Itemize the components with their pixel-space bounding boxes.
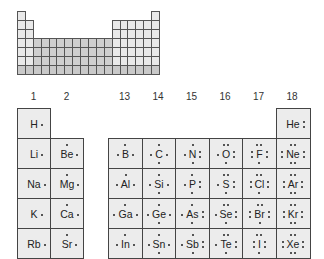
group-header-13: 13	[108, 91, 141, 102]
valence-electron-dot	[233, 156, 235, 158]
valence-electron-dot	[225, 162, 227, 164]
valence-electron-dot	[256, 144, 258, 146]
valence-electron-dot	[251, 151, 253, 153]
valence-electron-dot	[202, 241, 204, 243]
group-header-1: 1	[17, 91, 50, 102]
valence-electron-dot	[76, 154, 78, 156]
valence-electron-dot	[158, 204, 160, 206]
valence-electron-dot	[215, 214, 217, 216]
valence-electron-dot	[233, 151, 235, 153]
element-cell-k: K	[17, 198, 51, 229]
lewis-symbol: Al	[115, 178, 136, 190]
valence-electron-dot	[158, 192, 160, 194]
valence-electron-dot	[290, 204, 292, 206]
lewis-symbol: Be	[55, 148, 80, 160]
valence-electron-dot	[235, 216, 237, 218]
element-cell-cl: Cl	[242, 168, 277, 199]
valence-electron-dot	[257, 204, 259, 206]
element-symbol: Cl	[255, 178, 265, 190]
lewis-symbol: Se	[214, 208, 239, 220]
valence-electron-dot	[294, 192, 296, 194]
element-symbol: S	[222, 178, 229, 190]
valence-electron-dot	[249, 216, 251, 218]
valence-electron-dot	[150, 154, 152, 156]
valence-electron-dot	[181, 214, 183, 216]
element-symbol: Si	[154, 178, 163, 190]
valence-electron-dot	[191, 192, 193, 194]
valence-electron-dot	[191, 174, 193, 176]
element-symbol: Al	[121, 178, 130, 190]
valence-electron-dot	[253, 246, 255, 248]
valence-electron-dot	[258, 192, 260, 194]
element-cell-sn: Sn	[142, 228, 177, 259]
valence-electron-dot	[116, 244, 118, 246]
valence-electron-dot	[158, 162, 160, 164]
valence-electron-dot	[290, 222, 292, 224]
valence-electron-dot	[223, 234, 225, 236]
valence-electron-dot	[303, 156, 305, 158]
valence-electron-dot	[41, 154, 43, 156]
valence-electron-dot	[225, 222, 227, 224]
element-cell-p: P	[175, 168, 210, 199]
lewis-symbol: K	[24, 208, 43, 220]
element-cell-in: In	[108, 228, 143, 259]
valence-electron-dot	[249, 211, 251, 213]
element-cell-ne: Ne	[276, 138, 311, 169]
lewis-symbol: Na	[21, 178, 46, 190]
valence-electron-dot	[167, 184, 169, 186]
valence-electron-dot	[147, 214, 149, 216]
valence-electron-dot	[264, 246, 266, 248]
valence-electron-dot	[282, 246, 284, 248]
valence-electron-dot	[66, 174, 68, 176]
valence-electron-dot	[253, 241, 255, 243]
lewis-symbol: O	[216, 148, 236, 160]
element-symbol: Sr	[62, 238, 73, 250]
valence-electron-dot	[124, 234, 126, 236]
valence-electron-dot	[158, 252, 160, 254]
valence-electron-dot	[258, 162, 260, 164]
valence-electron-dot	[283, 181, 285, 183]
element-symbol: As	[186, 208, 198, 220]
valence-electron-dot	[225, 252, 227, 254]
element-cell-ar: Ar	[276, 168, 311, 199]
valence-electron-dot	[199, 156, 201, 158]
valence-electron-dot	[223, 144, 225, 146]
valence-electron-dot	[202, 211, 204, 213]
lewis-symbol: Kr	[282, 208, 305, 220]
element-symbol: Kr	[288, 208, 299, 220]
element-cell-h: H	[17, 108, 51, 139]
valence-electron-dot	[217, 184, 219, 186]
valence-electron-dot	[184, 184, 186, 186]
element-cell-b: B	[108, 138, 143, 169]
valence-electron-dot	[282, 241, 284, 243]
valence-electron-dot	[116, 184, 118, 186]
valence-electron-dot	[184, 154, 186, 156]
element-cell-as: As	[175, 198, 210, 229]
valence-electron-dot	[215, 244, 217, 246]
valence-electron-dot	[169, 214, 171, 216]
valence-electron-dot	[233, 186, 235, 188]
mini-table-cell	[151, 65, 160, 75]
valence-electron-dot	[256, 174, 258, 176]
lewis-symbol: S	[216, 178, 235, 190]
valence-electron-dot	[136, 214, 138, 216]
valence-electron-dot	[132, 154, 134, 156]
valence-electron-dot	[66, 234, 68, 236]
lewis-symbol: Sn	[147, 238, 172, 250]
lewis-symbol: N	[183, 148, 203, 160]
element-cell-kr: Kr	[276, 198, 311, 229]
element-cell-n: N	[175, 138, 210, 169]
valence-electron-dot	[260, 174, 262, 176]
valence-electron-dot	[301, 211, 303, 213]
valence-electron-dot	[294, 252, 296, 254]
element-symbol: I	[258, 238, 261, 250]
valence-electron-dot	[113, 214, 115, 216]
valence-electron-dot	[235, 241, 237, 243]
valence-electron-dot	[117, 154, 119, 156]
valence-electron-dot	[192, 162, 194, 164]
valence-electron-dot	[283, 211, 285, 213]
valence-electron-dot	[294, 174, 296, 176]
lewis-symbol: H	[24, 118, 44, 130]
element-cell-i: I	[242, 228, 277, 259]
lewis-symbol: Cl	[249, 178, 271, 190]
